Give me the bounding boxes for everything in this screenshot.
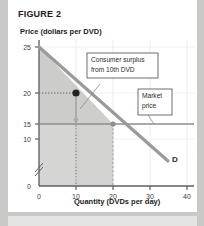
y-tick-label-25: 25: [23, 44, 31, 51]
tenth-dvd-point: [72, 89, 79, 96]
market-price-callout-line2: price: [142, 102, 157, 110]
y-tick-label-10: 10: [23, 136, 31, 143]
market-price-callout-line1: Market: [142, 92, 162, 99]
consumer-surplus-callout-line1: Consumer surplus: [91, 56, 145, 64]
x-tick-label-40: 40: [183, 193, 191, 200]
x-tick-label-0: 0: [37, 193, 41, 200]
figure-card: FIGURE 2 Price (dollars per DVD) Quantit…: [8, 0, 197, 212]
demand-curve-chart: 25 20 15 10 0 0 10 20 30 40: [8, 0, 197, 212]
market-price-callout: Market price: [138, 89, 172, 124]
y-tick-label-20: 20: [23, 90, 31, 97]
x-tick-label-30: 30: [146, 193, 154, 200]
x-tick-label-20: 20: [109, 193, 117, 200]
y-tick-label-15: 15: [23, 121, 31, 128]
bottom-band: [8, 216, 197, 226]
equilibrium-point: [110, 121, 115, 126]
x-tick-label-10: 10: [72, 193, 80, 200]
y-tick-label-0: 0: [27, 183, 31, 190]
demand-curve-label: D: [172, 155, 178, 164]
consumer-surplus-callout-line2: from 10th DVD: [91, 66, 135, 73]
